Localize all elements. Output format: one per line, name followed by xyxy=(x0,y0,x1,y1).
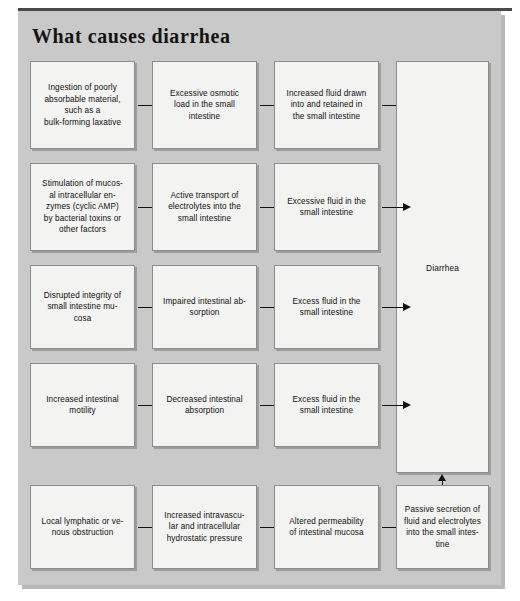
flow-box-diarrhea: Diarrhea xyxy=(396,61,489,473)
flow-box-label: Altered permeabilityof intestinal mucosa xyxy=(285,516,367,539)
flow-box-label: Increased intravascu-lar and intracellul… xyxy=(160,510,248,545)
flow-box-label: Increased fluid drawninto and retained i… xyxy=(283,88,371,123)
flow-box-r5c4: Passive secretion offluid and electrolyt… xyxy=(396,485,489,569)
flow-box-r3c2: Impaired intestinal ab-sorption xyxy=(152,265,257,349)
page-title: What causes diarrhea xyxy=(32,25,231,48)
arrow-r3c3-to-diarrhea xyxy=(382,303,411,312)
flow-box-label: Excessive osmoticload in the smallintest… xyxy=(166,88,243,123)
flow-box-r2c2: Active transport ofelectrolytes into the… xyxy=(152,163,257,251)
flow-box-label: Excess fluid in thesmall intestine xyxy=(289,296,365,319)
flow-box-r2c1: Stimulation of mucos-al intracellular en… xyxy=(30,163,135,251)
arrow-r4c3-to-diarrhea xyxy=(382,401,411,410)
flow-box-r5c3: Altered permeabilityof intestinal mucosa xyxy=(274,485,379,569)
flow-box-label: Excess fluid in thesmall intestine xyxy=(289,394,365,417)
flow-box-label: Ingestion of poorlyabsorbable material,s… xyxy=(40,82,125,128)
flow-box-r1c3: Increased fluid drawninto and retained i… xyxy=(274,61,379,149)
flow-box-label: Diarrhea xyxy=(422,263,463,275)
diagram-root: What causes diarrhea Ingestion of poorly… xyxy=(0,0,520,601)
flow-box-r4c3: Excess fluid in thesmall intestine xyxy=(274,363,379,447)
arrow-r2c3-to-diarrhea xyxy=(382,203,411,212)
flow-box-label: Excessive fluid in thesmall intestine xyxy=(283,196,370,219)
flow-box-r4c1: Increased intestinalmotility xyxy=(30,363,135,447)
flow-box-label: Local lymphatic or ve-nous obstruction xyxy=(38,516,128,539)
flow-box-r1c2: Excessive osmoticload in the smallintest… xyxy=(152,61,257,149)
flow-box-label: Active transport ofelectrolytes into the… xyxy=(164,190,245,225)
flow-box-r1c1: Ingestion of poorlyabsorbable material,s… xyxy=(30,61,135,149)
flow-box-r3c1: Disrupted integrity ofsmall intestine mu… xyxy=(30,265,135,349)
flow-box-r5c1: Local lymphatic or ve-nous obstruction xyxy=(30,485,135,569)
flow-box-label: Passive secretion offluid and electrolyt… xyxy=(400,504,485,550)
diagram-panel: What causes diarrhea Ingestion of poorly… xyxy=(18,11,501,585)
flow-box-label: Stimulation of mucos-al intracellular en… xyxy=(38,178,127,236)
flow-box-r4c2: Decreased intestinalabsorption xyxy=(152,363,257,447)
flow-box-label: Disrupted integrity ofsmall intestine mu… xyxy=(40,290,125,325)
flow-box-r3c3: Excess fluid in thesmall intestine xyxy=(274,265,379,349)
flow-box-r2c3: Excessive fluid in thesmall intestine xyxy=(274,163,379,251)
flow-box-label: Increased intestinalmotility xyxy=(42,394,123,417)
flow-box-label: Impaired intestinal ab-sorption xyxy=(159,296,250,319)
flow-box-label: Decreased intestinalabsorption xyxy=(162,394,246,417)
flow-box-r5c2: Increased intravascu-lar and intracellul… xyxy=(152,485,257,569)
